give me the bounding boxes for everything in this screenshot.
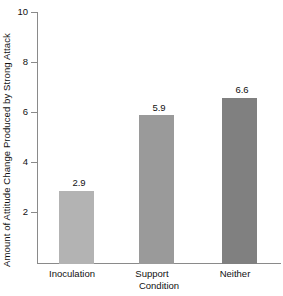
bar-support — [139, 115, 174, 264]
y-tick-label-6: 6 — [4, 107, 28, 117]
bar-inoculation — [59, 191, 94, 264]
x-axis-title: Condition — [37, 280, 281, 291]
x-tick-label-neither: Neither — [197, 268, 273, 279]
x-tick-label-support: Support — [114, 268, 190, 279]
bar-chart: Amount of Attitude Change Produced by St… — [0, 0, 283, 296]
y-axis-title: Amount of Attitude Change Produced by St… — [0, 14, 14, 286]
bar-value-inoculation: 2.9 — [44, 177, 114, 188]
y-tick-label-10: 10 — [4, 7, 28, 17]
bar-value-neither: 6.6 — [207, 84, 277, 95]
x-tick-label-inoculation: Inoculation — [34, 268, 110, 279]
y-tick-label-4: 4 — [4, 157, 28, 167]
y-tick-label-2: 2 — [4, 207, 28, 217]
bar-value-support: 5.9 — [124, 102, 194, 113]
bar-neither — [222, 98, 257, 264]
y-tick-label-8: 8 — [4, 57, 28, 67]
plot-area — [37, 12, 281, 264]
